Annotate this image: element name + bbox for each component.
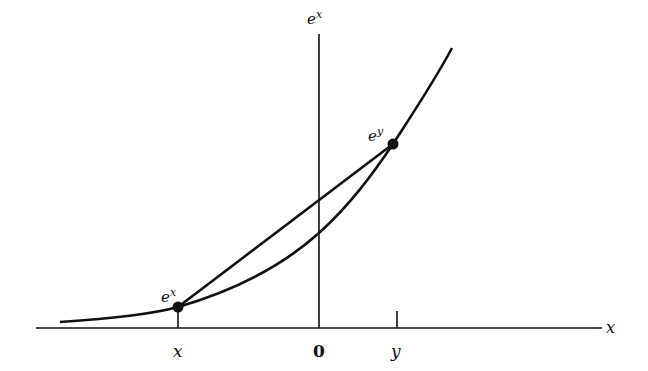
tick-label-x: x (173, 341, 183, 361)
exponential-curve (60, 48, 452, 322)
origin-label: 0 (313, 341, 325, 361)
point-e-x (173, 302, 184, 313)
point-e-y (388, 139, 399, 150)
point-label-e-y: ey (368, 125, 384, 145)
convexity-diagram: ex ex ey x 0 y x (0, 0, 648, 371)
x-axis-label: x (606, 318, 615, 337)
y-axis-label: ex (307, 8, 323, 28)
tick-label-y: y (390, 341, 401, 361)
chord-line (178, 144, 393, 307)
